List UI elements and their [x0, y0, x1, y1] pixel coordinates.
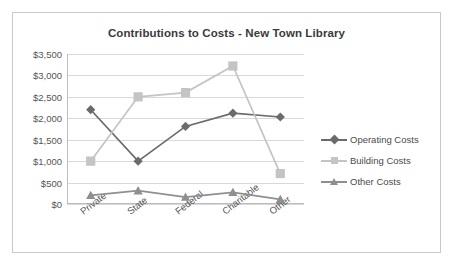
chart-title: Contributions to Costs - New Town Librar…: [13, 27, 440, 39]
series-plot: [67, 54, 304, 204]
series-line: [91, 66, 281, 174]
data-point-marker: [181, 88, 190, 97]
legend-item[interactable]: Building Costs: [321, 150, 441, 171]
y-axis-tick-label: $3,000: [33, 70, 62, 81]
legend-triangle-icon: [321, 176, 347, 188]
legend-item[interactable]: Other Costs: [321, 171, 441, 192]
data-point-marker: [134, 92, 143, 101]
y-axis-tick-label: $500: [41, 177, 62, 188]
plot-area: $0$500$1,000$1,500$2,000$2,500$3,000$3,5…: [67, 54, 304, 204]
y-axis-tick-label: $1,000: [33, 156, 62, 167]
series-line: [91, 110, 281, 161]
y-axis-tick-label: $2,000: [33, 113, 62, 124]
legend-label: Operating Costs: [350, 134, 419, 145]
legend-label: Other Costs: [350, 176, 401, 187]
legend-diamond-icon: [321, 134, 347, 146]
y-axis-tick-label: $3,500: [33, 49, 62, 60]
data-point-marker: [276, 169, 285, 178]
data-point-marker: [276, 112, 285, 121]
y-axis-tick-label: $0: [51, 199, 62, 210]
data-point-marker: [228, 61, 237, 70]
legend-label: Building Costs: [350, 155, 411, 166]
legend-item[interactable]: Operating Costs: [321, 129, 441, 150]
legend-square-icon: [321, 155, 347, 167]
y-axis-tick-label: $2,500: [33, 91, 62, 102]
data-point-marker: [86, 157, 95, 166]
y-axis-tick-label: $1,500: [33, 134, 62, 145]
chart-legend: Operating CostsBuilding CostsOther Costs: [321, 129, 441, 192]
data-point-marker: [228, 109, 237, 118]
chart-frame: Contributions to Costs - New Town Librar…: [12, 12, 441, 253]
